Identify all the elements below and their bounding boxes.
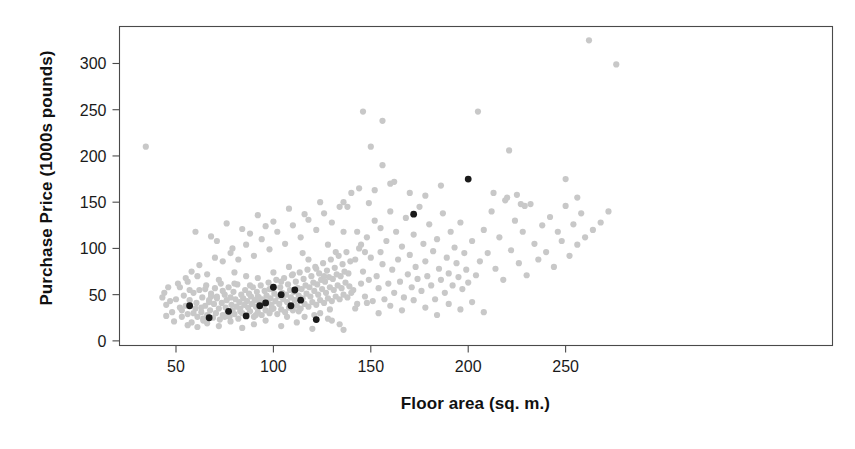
data-point xyxy=(551,264,557,270)
data-point xyxy=(383,238,389,244)
data-point xyxy=(278,323,284,329)
data-point xyxy=(216,323,222,329)
data-point xyxy=(185,311,191,317)
data-point xyxy=(522,203,528,209)
data-point xyxy=(297,269,303,275)
data-point xyxy=(328,256,334,262)
data-point xyxy=(428,282,434,288)
data-point xyxy=(490,190,496,196)
data-point xyxy=(227,318,233,324)
data-point xyxy=(379,261,385,267)
scatter-plot-figure: 50100150200250050100150200250300 Purchas… xyxy=(0,0,855,449)
data-point xyxy=(413,264,419,270)
data-point xyxy=(555,229,561,235)
data-point xyxy=(305,217,311,223)
data-point xyxy=(216,305,222,311)
data-point xyxy=(410,211,417,218)
data-point xyxy=(364,300,370,306)
data-point xyxy=(559,238,565,244)
data-point xyxy=(340,199,346,205)
data-point xyxy=(313,316,320,323)
data-point xyxy=(214,293,220,299)
x-tick-label: 200 xyxy=(455,358,482,375)
data-point xyxy=(377,225,383,231)
data-point xyxy=(520,229,526,235)
data-point xyxy=(332,265,338,271)
data-point xyxy=(204,271,210,277)
data-point xyxy=(321,273,327,279)
data-point xyxy=(243,273,249,279)
data-point xyxy=(305,256,311,262)
data-point xyxy=(225,284,231,290)
plot-canvas: 50100150200250050100150200250300 xyxy=(0,0,855,449)
data-point xyxy=(485,250,491,256)
data-point xyxy=(293,279,299,285)
data-point xyxy=(539,222,545,228)
data-point xyxy=(457,219,463,225)
data-point xyxy=(446,270,452,276)
data-point xyxy=(143,144,149,150)
data-point xyxy=(278,291,285,298)
data-point xyxy=(506,147,512,153)
data-point xyxy=(516,260,522,266)
data-point xyxy=(313,227,319,233)
data-point xyxy=(259,236,265,242)
data-point xyxy=(239,325,245,331)
data-point xyxy=(291,287,298,294)
data-point xyxy=(296,308,302,314)
data-point xyxy=(459,286,465,292)
data-point xyxy=(327,306,333,312)
data-point xyxy=(605,208,611,214)
data-point xyxy=(358,280,364,286)
data-point xyxy=(590,227,596,233)
data-point xyxy=(354,229,360,235)
data-point xyxy=(282,241,288,247)
data-point xyxy=(407,252,413,258)
data-point xyxy=(362,293,368,299)
data-point xyxy=(206,299,212,305)
data-point xyxy=(465,176,472,183)
data-point xyxy=(477,258,483,264)
data-point xyxy=(268,306,274,312)
data-point xyxy=(297,297,304,304)
data-point xyxy=(179,314,185,320)
data-point xyxy=(463,267,469,273)
data-point xyxy=(455,274,461,280)
data-point xyxy=(352,256,358,262)
y-tick-label: 50 xyxy=(89,287,107,304)
data-point xyxy=(453,260,459,266)
data-point xyxy=(420,241,426,247)
data-point xyxy=(329,219,335,225)
data-point xyxy=(488,208,494,214)
x-tick-label: 250 xyxy=(552,358,579,375)
data-point xyxy=(301,211,307,217)
data-point xyxy=(508,247,514,253)
data-point xyxy=(379,118,385,124)
data-point xyxy=(194,324,200,330)
data-point xyxy=(193,300,199,306)
data-point xyxy=(199,294,205,300)
data-point xyxy=(175,280,181,286)
data-point xyxy=(333,249,339,255)
data-point xyxy=(290,222,296,228)
data-point xyxy=(315,292,321,298)
data-point xyxy=(230,289,236,295)
data-point xyxy=(432,296,438,302)
data-point xyxy=(345,270,351,276)
data-point xyxy=(422,258,428,264)
data-point xyxy=(348,190,354,196)
data-point xyxy=(387,208,393,214)
data-point xyxy=(337,321,343,327)
x-tick-label: 100 xyxy=(260,358,287,375)
data-point xyxy=(563,176,569,182)
data-point xyxy=(356,185,362,191)
data-point xyxy=(422,304,428,310)
data-point xyxy=(372,218,378,224)
data-point xyxy=(255,293,261,299)
data-point xyxy=(502,197,508,203)
data-point xyxy=(224,220,230,226)
x-tick-label: 150 xyxy=(357,358,384,375)
y-axis-title: Purchase Price (1000s pounds) xyxy=(37,13,57,343)
data-point xyxy=(265,280,271,286)
data-point xyxy=(247,231,253,237)
